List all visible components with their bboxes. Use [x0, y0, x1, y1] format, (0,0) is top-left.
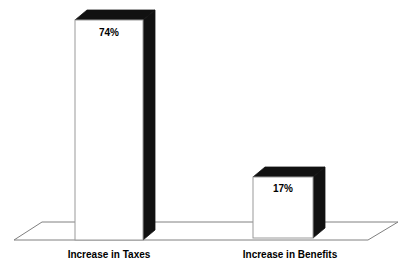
bar-top-face — [75, 10, 155, 20]
bar-side-face — [143, 10, 155, 240]
bar-increase-in-taxes[interactable] — [75, 10, 155, 240]
floor-plane — [14, 222, 398, 240]
bar-side-face — [313, 167, 325, 238]
category-label-increase-in-benefits: Increase in Benefits — [215, 249, 365, 260]
bar-front-face — [75, 20, 143, 240]
bar-increase-in-benefits[interactable] — [253, 167, 325, 238]
chart-canvas — [0, 0, 411, 272]
category-label-increase-in-taxes: Increase in Taxes — [39, 249, 179, 260]
chart-floor — [14, 222, 398, 240]
bar-chart: 74% 17% Increase in Taxes Increase in Be… — [0, 0, 411, 272]
bar-value-label: 17% — [253, 183, 313, 194]
bar-value-label: 74% — [75, 27, 143, 38]
